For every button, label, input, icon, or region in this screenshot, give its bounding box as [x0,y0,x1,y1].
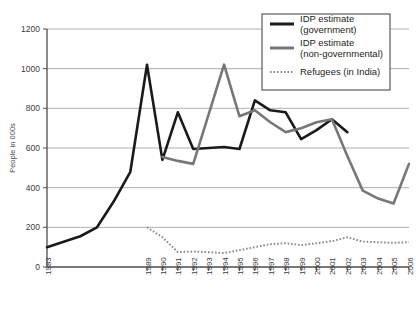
chart-legend: IDP estimate(government)IDP estimate(non… [262,13,390,90]
chart-canvas: 020040060080010001200 198319891990199119… [0,0,416,323]
x-tick-label: 1989 [144,257,153,275]
x-tick-label: 1990 [159,257,168,275]
x-tick-label: 1993 [205,257,214,275]
y-tick-label: 800 [26,103,40,113]
x-tick-label: 1997 [267,257,276,275]
legend-label-2: Refugees (in India) [300,66,380,77]
x-tick-label: 1995 [236,257,245,275]
x-tick-label: 1983 [44,257,53,275]
y-tick-label: 400 [26,183,40,193]
x-tick-label: 1994 [221,257,230,275]
y-tick-label: 200 [26,222,40,232]
legend-sublabel-0: (government) [300,24,357,35]
y-axis-title: People in 000s [8,123,17,173]
x-tick-label: 1998 [282,257,291,275]
x-tick-label: 2002 [344,257,353,275]
x-tick-label: 2001 [328,257,337,275]
x-tick-label: 2000 [313,257,322,275]
y-tick-label: 600 [26,143,40,153]
x-tick-label: 1991 [174,257,183,275]
y-tick-label: 1200 [21,24,40,34]
x-tick-label: 1999 [298,257,307,275]
y-tick-label: 0 [35,262,40,272]
line-chart: 020040060080010001200 198319891990199119… [0,0,416,323]
x-tick-label: 2003 [359,257,368,275]
x-tick-label: 1996 [251,257,260,275]
y-tick-label: 1000 [21,64,40,74]
x-tick-label: 2004 [375,257,384,275]
legend-label-1: IDP estimate [300,37,354,48]
x-tick-label: 2005 [390,257,399,275]
x-tick-label: 2006 [406,257,415,275]
legend-label-0: IDP estimate [300,13,354,24]
legend-sublabel-1: (non-governmental) [300,48,383,59]
x-tick-label: 1992 [190,257,199,275]
